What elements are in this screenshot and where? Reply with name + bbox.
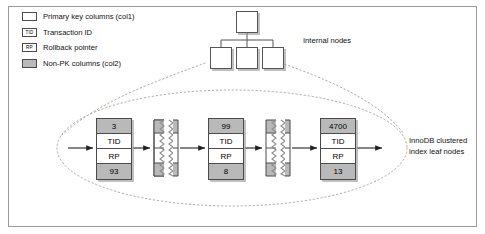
innodb-clustered-index-diagram: Primary key columns (col1) TID Transacti… (0, 0, 485, 234)
record-rp-cell: RP (321, 149, 355, 164)
leaf-nodes-label: InnoDB clustered index leaf nodes (409, 136, 467, 157)
legend-label-primary-key: Primary key columns (col1) (43, 12, 135, 21)
rp-box-swatch-icon: RP (22, 43, 37, 52)
tree-node-root (236, 11, 258, 33)
filled-box-swatch-icon (22, 59, 37, 68)
leaf-record: 3 TID RP 93 (96, 118, 132, 180)
record-nonpk-cell: 93 (97, 164, 131, 179)
record-pk-cell: 99 (209, 119, 243, 134)
torn-page-separator-1 (266, 120, 290, 176)
tree-connectors (221, 33, 273, 47)
record-tid-cell: TID (97, 134, 131, 149)
record-pk-cell: 3 (97, 119, 131, 134)
tree-node-child-3 (262, 47, 284, 69)
tree-node-child-2 (236, 47, 258, 69)
record-nonpk-cell: 13 (321, 164, 355, 179)
leaf-record: 4700 TID RP 13 (320, 118, 356, 180)
record-rp-cell: RP (209, 149, 243, 164)
leaf-nodes-label-line-1: InnoDB clustered (409, 136, 467, 147)
legend-item-primary-key: Primary key columns (col1) (22, 10, 172, 23)
legend: Primary key columns (col1) TID Transacti… (22, 10, 172, 72)
leaf-record: 99 TID RP 8 (208, 118, 244, 180)
legend-item-non-pk: Non-PK columns (col2) (22, 57, 172, 70)
tree-node-child-1 (210, 47, 232, 69)
torn-page-separator-0 (154, 120, 178, 176)
record-rp-cell: RP (97, 149, 131, 164)
record-tid-cell: TID (209, 134, 243, 149)
internal-nodes-label: Internal nodes (303, 36, 351, 45)
empty-box-swatch-icon (22, 12, 37, 21)
legend-label-rollback-pointer: Rollback pointer (43, 43, 97, 52)
legend-item-rollback-pointer: RP Rollback pointer (22, 41, 172, 54)
legend-label-non-pk: Non-PK columns (col2) (43, 59, 121, 68)
funnel-line-left (62, 63, 205, 135)
record-pk-cell: 4700 (321, 119, 355, 134)
leaf-nodes-label-line-2: index leaf nodes (409, 147, 467, 158)
record-nonpk-cell: 8 (209, 164, 243, 179)
legend-label-transaction-id: Transaction ID (43, 28, 92, 37)
record-tid-cell: TID (321, 134, 355, 149)
tid-box-swatch-icon: TID (22, 28, 37, 37)
legend-item-transaction-id: TID Transaction ID (22, 26, 172, 39)
